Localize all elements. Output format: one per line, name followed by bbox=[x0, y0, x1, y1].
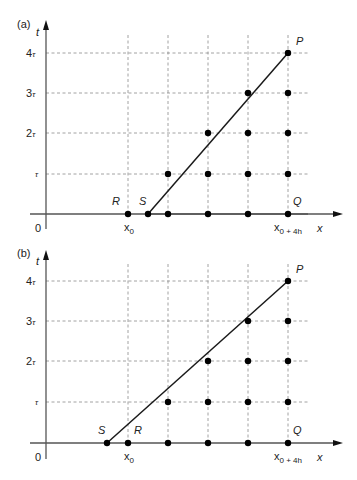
panel-b-tick-3tau: 3τ bbox=[26, 315, 36, 327]
panel-b-characteristic-line bbox=[107, 281, 288, 443]
panel-b-point-S: S bbox=[98, 424, 106, 436]
panel-a-t-label: t bbox=[36, 26, 40, 38]
panel-b-point-R: R bbox=[134, 424, 142, 436]
panel-b-tick-x0-4h: x0 + 4h bbox=[274, 450, 302, 465]
panel-a-grid bbox=[46, 35, 308, 214]
characteristics-diagram: (a) bbox=[0, 0, 357, 480]
panel-a-point-P: P bbox=[296, 35, 304, 47]
panel-a-x-arrow-icon bbox=[333, 211, 343, 217]
panel-a-t-arrow-icon bbox=[43, 20, 49, 30]
panel-a-tick-x0-4h: x0 + 4h bbox=[274, 221, 302, 236]
panel-b-point-P: P bbox=[296, 263, 304, 275]
panel-a-tick-2tau: 2τ bbox=[26, 127, 36, 139]
panel-a-point-Q: Q bbox=[293, 195, 302, 207]
panel-b-t-arrow-icon bbox=[43, 250, 49, 260]
panel-b: (b) t x 0 4τ 3τ 2τ τ x0 x0 + 4h bbox=[17, 247, 343, 465]
panel-b-tick-x0: x0 bbox=[124, 450, 135, 465]
panel-a-label: (a) bbox=[17, 18, 30, 30]
panel-b-x-label: x bbox=[316, 451, 323, 463]
panel-a-point-R: R bbox=[112, 195, 120, 207]
panel-a-tick-tau: τ bbox=[35, 170, 39, 179]
panel-a-tick-x0: x0 bbox=[124, 221, 135, 236]
panel-a: (a) bbox=[17, 18, 343, 236]
panel-a-x-label: x bbox=[316, 222, 323, 234]
panel-b-point-Q: Q bbox=[293, 424, 302, 436]
panel-a-characteristic-line bbox=[148, 53, 288, 214]
panel-a-tick-3tau: 3τ bbox=[26, 87, 36, 99]
panel-a-origin-label: 0 bbox=[35, 222, 41, 234]
panel-b-x-arrow-icon bbox=[333, 440, 343, 446]
panel-a-tick-4tau: 4τ bbox=[26, 47, 36, 59]
panel-b-tick-4tau: 4τ bbox=[26, 275, 36, 287]
panel-b-grid bbox=[46, 264, 308, 443]
panel-b-t-label: t bbox=[36, 255, 40, 267]
panel-b-tick-2tau: 2τ bbox=[26, 355, 36, 367]
panel-b-origin-label: 0 bbox=[35, 451, 41, 463]
panel-b-label: (b) bbox=[17, 247, 30, 259]
panel-a-point-S: S bbox=[139, 195, 147, 207]
panel-b-tick-tau: τ bbox=[35, 398, 39, 407]
